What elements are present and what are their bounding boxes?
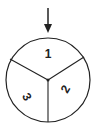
pointer-arrow-icon	[44, 8, 52, 33]
section-label-1: 1	[45, 47, 52, 61]
spinner-center	[47, 79, 50, 82]
spinner-diagram: 1 2 3	[0, 0, 96, 132]
